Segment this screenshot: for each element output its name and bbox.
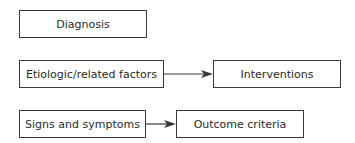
arrow-etiologic-to-interventions bbox=[164, 70, 213, 78]
arrow-signs-to-outcome bbox=[146, 120, 176, 128]
connector-arrows bbox=[0, 0, 355, 143]
